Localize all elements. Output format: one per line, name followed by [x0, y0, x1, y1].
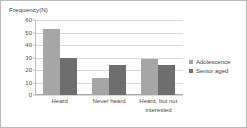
legend-label: Adolescence — [196, 59, 230, 65]
gridline — [35, 95, 183, 96]
x-axis-label: Heard — [35, 97, 84, 106]
y-tick-label: 50 — [25, 30, 32, 36]
bar-chart: Frequency(N) 0102030405060 AdolescenceSe… — [0, 0, 247, 128]
y-tick-label: 30 — [25, 55, 32, 61]
legend-item[interactable]: Adolescence — [189, 59, 230, 65]
bar — [141, 59, 158, 95]
bar-group — [84, 20, 133, 95]
y-tick-label: 60 — [25, 17, 32, 23]
x-axis-label: Heard, but not interested — [134, 97, 183, 115]
bar-group — [134, 20, 183, 95]
legend-swatch-icon — [189, 60, 193, 64]
x-axis-label: Never heard — [84, 97, 133, 106]
bar — [43, 29, 60, 95]
y-tick-label: 10 — [25, 80, 32, 86]
y-tick-label: 40 — [25, 42, 32, 48]
bar — [92, 78, 109, 96]
legend-label: Senior aged — [196, 68, 228, 74]
bars-layer — [35, 20, 183, 95]
y-axis-title: Frequency(N) — [9, 6, 48, 13]
y-tick-label: 20 — [25, 67, 32, 73]
bar — [109, 65, 126, 95]
legend-item[interactable]: Senior aged — [189, 68, 230, 74]
plot-area: 0102030405060 — [35, 20, 183, 95]
chart-legend: AdolescenceSenior aged — [189, 59, 230, 77]
bar-group — [35, 20, 84, 95]
bar — [158, 65, 175, 95]
bar — [60, 58, 77, 96]
legend-swatch-icon — [189, 69, 193, 73]
y-tick-label: 0 — [29, 92, 32, 98]
